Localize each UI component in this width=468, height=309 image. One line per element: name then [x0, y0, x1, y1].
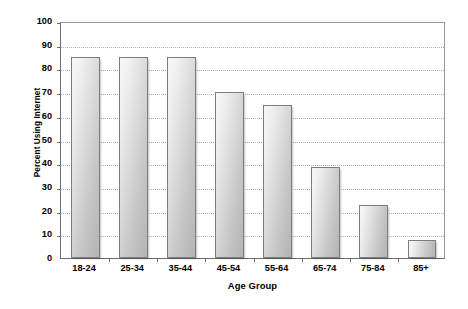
x-axis-title: Age Group	[60, 280, 445, 291]
x-tick-mark	[254, 258, 255, 262]
x-tick-label: 18-24	[60, 263, 108, 273]
y-tick-label: 50	[22, 136, 52, 145]
y-tick-label: 0	[22, 254, 52, 263]
bar[interactable]	[359, 205, 388, 258]
y-axis-tick-labels: 0102030405060708090100	[22, 22, 52, 259]
y-tick-label: 80	[22, 65, 52, 74]
plot-area	[60, 22, 445, 259]
bar-slot	[398, 23, 446, 258]
x-tick-label: 45-54	[204, 263, 252, 273]
y-tick-label: 60	[22, 112, 52, 121]
bar-slot	[61, 23, 109, 258]
x-tick-label: 35-44	[156, 263, 204, 273]
x-tick-mark	[205, 258, 206, 262]
bar-slot	[205, 23, 253, 258]
x-tick-mark	[109, 258, 110, 262]
x-tick-mark	[398, 258, 399, 262]
bar-slot	[157, 23, 205, 258]
bar[interactable]	[119, 57, 148, 258]
bar-slot	[350, 23, 398, 258]
x-tick-mark	[302, 258, 303, 262]
x-tick-label: 65-74	[301, 263, 349, 273]
bar[interactable]	[263, 105, 292, 258]
x-axis-tick-labels: 18-2425-3435-4445-5455-6465-7475-8485+	[60, 263, 445, 279]
bar-slot	[254, 23, 302, 258]
y-tick-label: 40	[22, 160, 52, 169]
y-tick-label: 90	[22, 41, 52, 50]
bar-chart: Percent Using Internet 01020304050607080…	[0, 0, 468, 309]
x-tick-mark	[350, 258, 351, 262]
x-tick-mark	[157, 258, 158, 262]
bar-slot	[109, 23, 157, 258]
bar[interactable]	[311, 167, 340, 258]
bars-layer	[61, 23, 444, 258]
y-tick-label: 70	[22, 88, 52, 97]
x-tick-label: 25-34	[108, 263, 156, 273]
bar[interactable]	[167, 57, 196, 258]
bar[interactable]	[215, 92, 244, 258]
y-tick-label: 100	[22, 17, 52, 26]
bar[interactable]	[408, 240, 437, 258]
x-tick-label: 55-64	[253, 263, 301, 273]
bar[interactable]	[71, 57, 100, 258]
x-tick-label: 85+	[397, 263, 445, 273]
y-tick-label: 20	[22, 207, 52, 216]
x-tick-label: 75-84	[349, 263, 397, 273]
y-tick-label: 30	[22, 183, 52, 192]
y-tick-label: 10	[22, 231, 52, 240]
bar-slot	[302, 23, 350, 258]
